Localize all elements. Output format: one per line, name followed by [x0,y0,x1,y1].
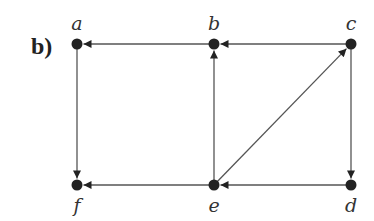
edge-e-to-c [214,49,346,185]
node-label-e: e [208,194,219,216]
node-a [72,39,83,50]
node-f [72,180,83,191]
node-label-b: b [208,12,220,34]
directed-graph: b) abcfed [0,0,374,221]
node-label-d: d [345,194,357,216]
node-e [209,180,220,191]
node-d [346,180,357,191]
node-label-f: f [71,194,83,216]
edges-group [77,44,351,185]
node-c [346,39,357,50]
panel-label: b) [31,33,52,59]
node-label-a: a [71,12,82,34]
node-label-c: c [346,12,357,34]
node-b [209,39,220,50]
